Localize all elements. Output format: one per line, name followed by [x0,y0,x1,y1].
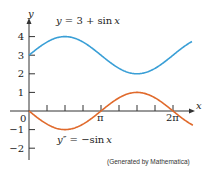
curve1-label: y = 3 + sinx [55,15,120,26]
y-tick-label: 3 [18,50,24,61]
x-tick-label-2pi: 2π [166,112,179,123]
y-axis-label: y [27,8,34,19]
x-axis-label: x [196,100,202,111]
y-tick-label: 1 [18,87,24,98]
y-tick-labels: 4321−1−2 [9,31,24,154]
y-tick-label: 4 [18,31,24,42]
y-tick-label: 2 [18,68,24,79]
curve2-label: y″ = −sinx [56,134,112,145]
x-axis-arrow-icon [189,109,195,114]
origin-label: 0 [20,113,26,124]
y-tick-label: −2 [9,143,24,154]
chart: y x 0 π 2π 4321−1−2 y = 3 + sinx y″ = −s… [0,0,209,174]
curve-3-plus-sin [29,37,192,74]
x-tick-label-pi: π [97,112,104,123]
credit-text: (Generated by Mathematica) [107,158,190,166]
y-tick-label: −1 [9,124,24,135]
